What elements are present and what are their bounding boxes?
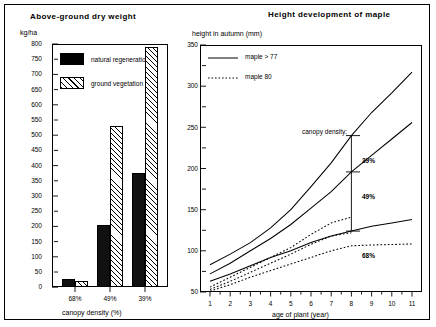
line-chart-panel: Height development of maple height in au… (190, 4, 430, 320)
legend-swatch-natural-regeneration (60, 53, 84, 65)
line-chart-xlabel: age of plant (year) (272, 311, 329, 318)
bar-ytick-700: 700 (18, 70, 42, 77)
line-xtick-1: 1 (200, 300, 220, 307)
bar-ytick-250: 250 (18, 207, 42, 214)
canopy-density-label-49: 49% (362, 193, 375, 200)
bar-ytick-400: 400 (18, 162, 42, 169)
bar-ytick-0: 0 (18, 283, 42, 290)
bar-ytick-150: 150 (18, 238, 42, 245)
bar-natural-regeneration-39 (132, 173, 145, 287)
bar-ytick-300: 300 (18, 192, 42, 199)
line-xtick-10: 10 (382, 300, 402, 307)
bar-chart-title: Above-ground dry weight (30, 12, 136, 21)
bar-ytick-200: 200 (18, 222, 42, 229)
legend-label-natural-regeneration: natural regeneration (91, 56, 149, 63)
canopy-density-label-68: 68% (362, 252, 375, 259)
line-xtick-9: 9 (362, 300, 382, 307)
line-xtick-3: 3 (240, 300, 260, 307)
line-xtick-8: 8 (341, 300, 361, 307)
line-xtick-11: 11 (402, 300, 422, 307)
curve-maple-gt77-39 (210, 72, 412, 265)
bar-ytick-650: 650 (18, 86, 42, 93)
bar-xtick-49: 49% (96, 295, 124, 302)
line-xtick-5: 5 (281, 300, 301, 307)
bar-chart-panel: Above-ground dry weight kg/ha (4, 4, 190, 320)
bar-ytick-800: 800 (18, 40, 42, 47)
line-xtick-2: 2 (220, 300, 240, 307)
line-xtick-7: 7 (321, 300, 341, 307)
bar-ytick-750: 750 (18, 55, 42, 62)
curve-maple-gt77-49 (210, 123, 412, 274)
line-chart-curves (190, 4, 430, 304)
bar-ytick-100: 100 (18, 253, 42, 260)
bar-xtick-39: 39% (131, 295, 159, 302)
bar-ytick-500: 500 (18, 131, 42, 138)
canopy-density-annotation-title: canopy density: (302, 128, 347, 135)
bar-ytick-350: 350 (18, 177, 42, 184)
bar-xtick-68: 68% (61, 295, 89, 302)
bar-ytick-450: 450 (18, 146, 42, 153)
bar-natural-regeneration-68 (62, 279, 75, 288)
bar-ytick-50: 50 (18, 268, 42, 275)
line-xtick-4: 4 (261, 300, 281, 307)
line-chart-x-axis-ticks (190, 292, 430, 298)
bar-ground-vegetation-39 (145, 47, 158, 287)
bar-ytick-600: 600 (18, 101, 42, 108)
curve-maple80-39 (210, 217, 351, 287)
bar-ytick-550: 550 (18, 116, 42, 123)
bar-ground-vegetation-49 (110, 126, 123, 287)
bar-chart-ylabel: kg/ha (20, 29, 37, 36)
line-xtick-6: 6 (301, 300, 321, 307)
canopy-density-label-39: 39% (362, 157, 375, 164)
legend-label-ground-vegetation: ground vegetation (91, 80, 143, 87)
legend-swatch-ground-vegetation (60, 77, 84, 89)
curve-maple80-49 (210, 233, 351, 290)
bar-chart-xlabel: canopy density (%) (62, 309, 122, 316)
bar-chart-y-axis-ticks (44, 40, 58, 292)
curve-maple80-68 (210, 244, 412, 291)
bar-natural-regeneration-49 (97, 225, 110, 287)
bar-chart-x-axis-ticks (52, 287, 169, 293)
figure-page: Above-ground dry weight kg/ha (0, 0, 436, 327)
